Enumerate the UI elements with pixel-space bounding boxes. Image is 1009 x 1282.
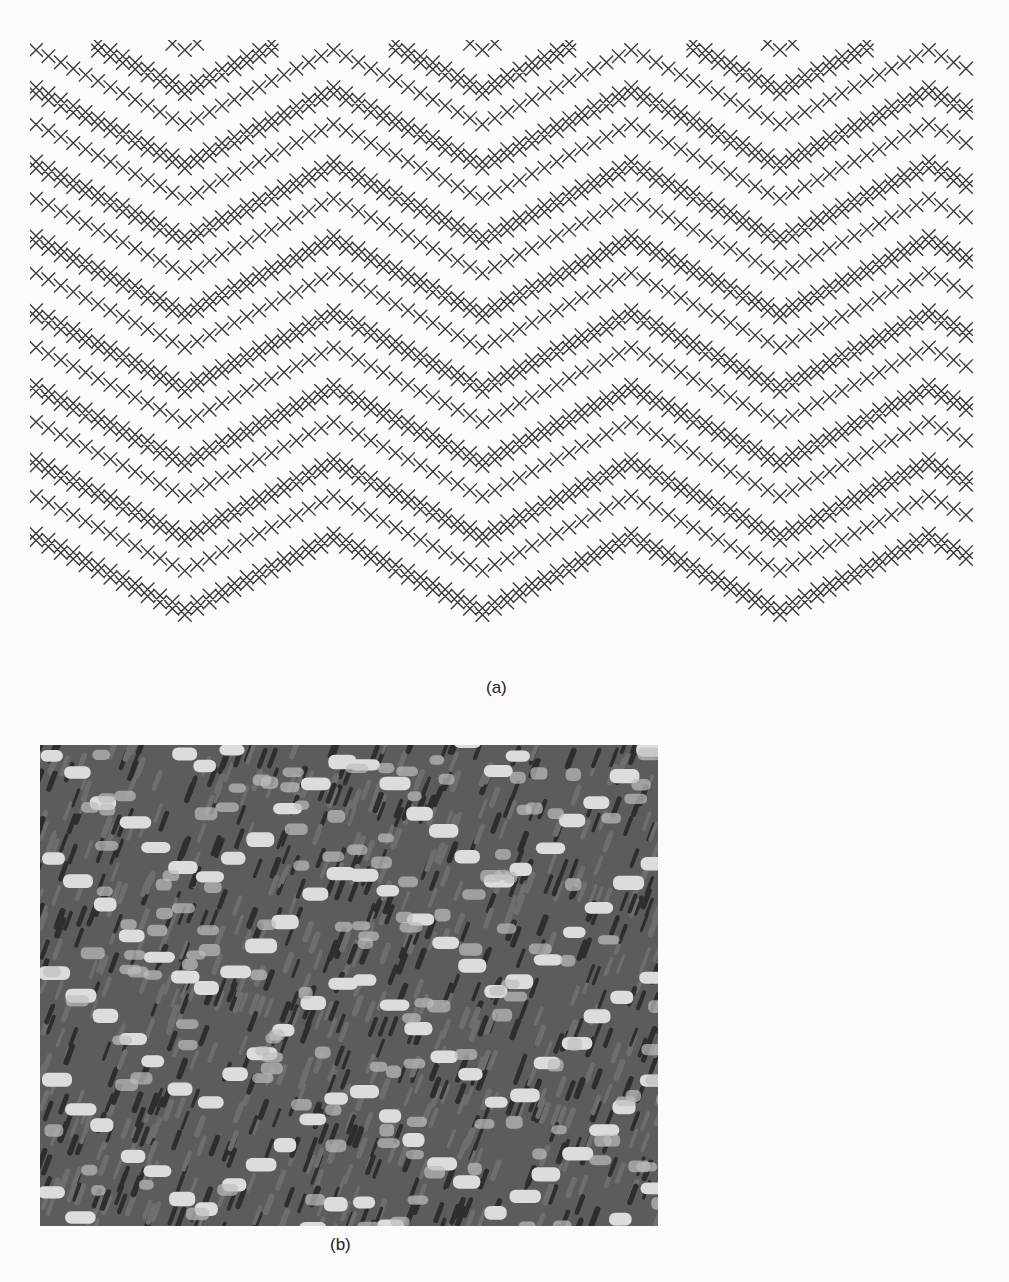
herringbone-draft [30, 40, 980, 668]
fabric-photo [40, 745, 658, 1226]
fabric-texture [40, 745, 658, 1226]
caption-a: (a) [486, 678, 507, 698]
weave-draft-diagram [30, 40, 980, 668]
caption-b: (b) [330, 1235, 351, 1255]
